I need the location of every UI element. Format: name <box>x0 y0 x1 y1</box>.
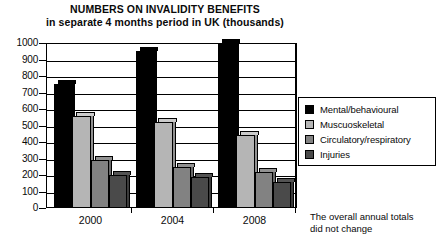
bar <box>154 122 172 208</box>
footnote-line-1: The overall annual totals <box>310 211 440 223</box>
bar <box>191 177 209 208</box>
legend-swatch <box>305 120 314 129</box>
y-tick <box>39 192 46 193</box>
y-tick-label: 200 <box>0 170 38 180</box>
y-tick-label: 900 <box>0 55 38 65</box>
bar <box>255 172 273 208</box>
y-tick-label: 400 <box>0 137 38 147</box>
legend-swatch <box>305 105 314 114</box>
y-tick-label: 0 <box>0 203 38 213</box>
bar <box>109 175 127 208</box>
bar <box>273 182 291 208</box>
y-tick-label: 800 <box>0 71 38 81</box>
chart-footnote: The overall annual totals did not change <box>310 211 440 234</box>
y-tick-label: 100 <box>0 187 38 197</box>
chart-subtitle: in separate 4 months period in UK (thous… <box>0 16 330 29</box>
bars-layer <box>46 43 297 208</box>
legend-label: Mental/behavioural <box>320 104 398 115</box>
y-tick <box>39 109 46 110</box>
y-tick-label: 500 <box>0 121 38 131</box>
legend-item: Mental/behavioural <box>305 102 430 117</box>
x-tick-label: 2004 <box>143 214 203 226</box>
y-tick <box>39 142 46 143</box>
y-tick-label: 300 <box>0 154 38 164</box>
x-tick-label: 2000 <box>61 214 121 226</box>
chart-title: NUMBERS ON INVALIDITY BENEFITS <box>0 3 330 16</box>
y-tick <box>39 60 46 61</box>
y-tick <box>39 76 46 77</box>
y-tick-label: 1000 <box>0 38 38 48</box>
legend-item: Circulatory/respiratory <box>305 132 430 147</box>
footnote-line-2: did not change <box>310 223 440 235</box>
bar <box>54 84 72 208</box>
y-tick <box>39 159 46 160</box>
legend-label: Muscuoskeletal <box>320 119 384 130</box>
y-tick <box>39 93 46 94</box>
y-tick-label: 600 <box>0 104 38 114</box>
bar <box>72 116 90 208</box>
x-tick-label: 2008 <box>225 214 285 226</box>
legend-swatch <box>305 150 314 159</box>
legend-label: Circulatory/respiratory <box>320 134 411 145</box>
x-axis: 200020042008 <box>46 214 297 228</box>
legend-item: Muscuoskeletal <box>305 117 430 132</box>
x-tick <box>131 208 132 213</box>
bar <box>136 51 154 208</box>
legend-swatch <box>305 135 314 144</box>
y-tick-label: 700 <box>0 88 38 98</box>
legend-label: Injuries <box>320 149 350 160</box>
y-axis: 01002003004005006007008009001000 <box>0 43 38 208</box>
y-tick <box>39 175 46 176</box>
bar <box>173 167 191 208</box>
chart-legend: Mental/behaviouralMuscuoskeletalCirculat… <box>298 97 436 166</box>
y-tick <box>39 126 46 127</box>
bar <box>218 43 236 208</box>
bar <box>236 135 254 208</box>
y-tick <box>39 43 46 44</box>
legend-item: Injuries <box>305 147 430 162</box>
x-tick <box>213 208 214 213</box>
y-tick <box>39 208 46 209</box>
bar <box>91 160 109 208</box>
x-tick <box>295 208 296 213</box>
